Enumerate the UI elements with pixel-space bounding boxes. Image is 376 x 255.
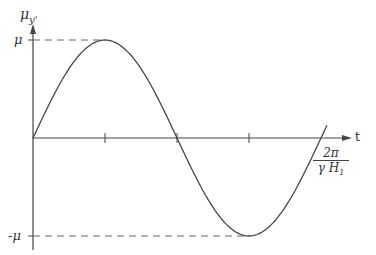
y-max-label: μ (14, 32, 22, 47)
x-axis-arrow-icon (342, 135, 352, 141)
period-label: 2π γ H1 (313, 146, 349, 180)
y-axis-arrow-icon (30, 24, 36, 34)
y-min-label: -μ (8, 228, 21, 243)
sine-diagram (0, 0, 376, 255)
y-axis-label: μy' (20, 6, 38, 25)
x-axis-label: t (355, 129, 360, 144)
